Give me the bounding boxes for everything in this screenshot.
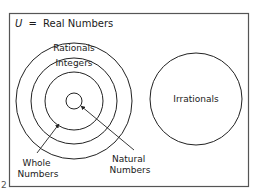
natural-numbers-label-line1: Natural <box>112 154 145 164</box>
equals-sign: = <box>29 18 37 29</box>
universe-label: Real Numbers <box>43 18 113 29</box>
whole-numbers-label-line1: Whole <box>22 158 51 168</box>
natural-numbers-circle <box>66 93 82 109</box>
real-numbers-venn-diagram: U = Real Numbers Rationals Integers Irra… <box>0 0 259 194</box>
rationals-label: Rationals <box>53 43 95 53</box>
edge-fragment: 2 <box>1 180 7 190</box>
whole-numbers-circle <box>45 72 103 130</box>
integers-circle <box>31 58 117 144</box>
natural-numbers-label-line2: Numbers <box>110 165 151 175</box>
universe-title: U = Real Numbers <box>15 18 113 29</box>
irrationals-label: Irrationals <box>173 94 219 104</box>
integers-label: Integers <box>55 58 92 68</box>
universe-symbol: U <box>15 18 23 29</box>
natural-numbers-label: Natural Numbers <box>110 154 151 175</box>
natural-numbers-arrow <box>81 106 134 150</box>
whole-numbers-label: Whole Numbers <box>18 158 59 179</box>
whole-numbers-label-line2: Numbers <box>18 169 59 179</box>
